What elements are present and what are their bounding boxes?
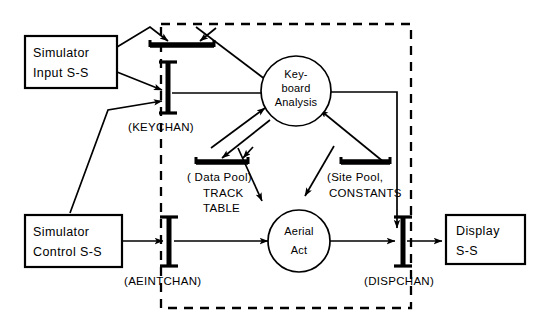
display-label-line1: Display (456, 224, 500, 238)
display-label-line2: S-S (456, 244, 478, 258)
box-simulator-input[interactable]: Simulator Input S-S (25, 36, 117, 88)
flow-keyboard-to-datapool (222, 120, 270, 158)
flow-datapool-to-keyboard (211, 108, 265, 148)
data-pool-label-line3: TABLE (203, 202, 240, 214)
keyboard-analysis-label-line1: Key- (284, 68, 308, 80)
box-display[interactable]: Display S-S (446, 215, 525, 264)
keychan-pool-bar (150, 40, 214, 47)
diagram-canvas: Simulator Input S-S Simulator Control S-… (0, 0, 550, 331)
site-pool-label-line2: CONSTANTS (329, 187, 402, 199)
simulator-input-label-line1: Simulator (33, 46, 89, 60)
simulator-control-label-line1: Simulator (33, 225, 89, 239)
data-pool-label-line2: TRACK (203, 187, 244, 199)
dispchan-label: (DISPCHAN) (364, 275, 434, 287)
keychan-label: (KEYCHAN) (128, 121, 194, 133)
pool-site-pool[interactable]: (Site Pool, CONSTANTS (327, 157, 402, 199)
channel-dispchan[interactable]: (DISPCHAN) (364, 217, 434, 287)
flow-sitepool-to-keyboard (320, 110, 385, 163)
flow-into-keypool-right (200, 28, 216, 41)
aerial-act-label-line2: Act (291, 244, 308, 256)
keyboard-analysis-label-line3: Analysis (275, 96, 318, 108)
data-pool-label-line1: ( Data Pool) (187, 171, 252, 183)
flow-input-to-keychan (117, 72, 162, 90)
aerial-act-label-line1: Aerial (284, 225, 313, 237)
channel-aeintchan[interactable]: (AEINTCHAN) (124, 217, 201, 287)
simulator-input-label-line2: Input S-S (33, 66, 89, 80)
aeintchan-label: (AEINTCHAN) (124, 275, 201, 287)
keyboard-analysis-label-line2: board (281, 82, 310, 94)
process-aerial-act[interactable]: Aerial Act (268, 210, 330, 272)
flow-control-to-keychan (70, 101, 162, 213)
simulator-control-label-line2: Control S-S (33, 245, 102, 259)
process-keyboard-analysis[interactable]: Key- board Analysis (261, 56, 331, 126)
site-pool-label-line1: (Site Pool, (327, 171, 383, 183)
pool-data-pool[interactable]: ( Data Pool) TRACK TABLE (187, 157, 252, 214)
box-simulator-control[interactable]: Simulator Control S-S (25, 215, 122, 267)
flow-into-datapool-second (243, 147, 253, 158)
